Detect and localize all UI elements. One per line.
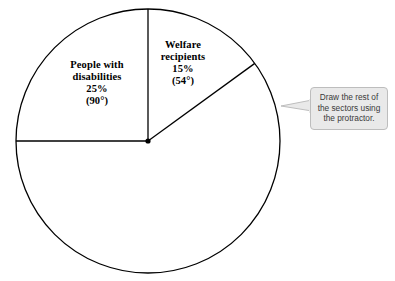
slice-label-degrees: (54°): [143, 75, 223, 87]
slice-label-line-2: recipients: [143, 51, 223, 63]
pie-center-point: [145, 138, 150, 143]
slice-label-percent: 25%: [42, 83, 152, 95]
pie-chart-worksheet: People with disabilities 25% (90°) Welfa…: [0, 0, 395, 281]
callout-pointer-tail: [281, 98, 313, 114]
slice-label-degrees: (90°): [42, 95, 152, 107]
callout-line-3: the protractor.: [315, 113, 383, 124]
slice-label-people-with-disabilities: People with disabilities 25% (90°): [42, 59, 152, 107]
slice-label-welfare-recipients: Welfare recipients 15% (54°): [143, 39, 223, 87]
slice-label-line-2: disabilities: [42, 71, 152, 83]
slice-label-line-1: Welfare: [143, 39, 223, 51]
slice-label-percent: 15%: [143, 63, 223, 75]
callout-line-2: the sectors using: [315, 103, 383, 114]
callout-line-1: Draw the rest of: [315, 92, 383, 103]
slice-label-line-1: People with: [42, 59, 152, 71]
instruction-callout: Draw the rest of the sectors using the p…: [310, 87, 388, 130]
